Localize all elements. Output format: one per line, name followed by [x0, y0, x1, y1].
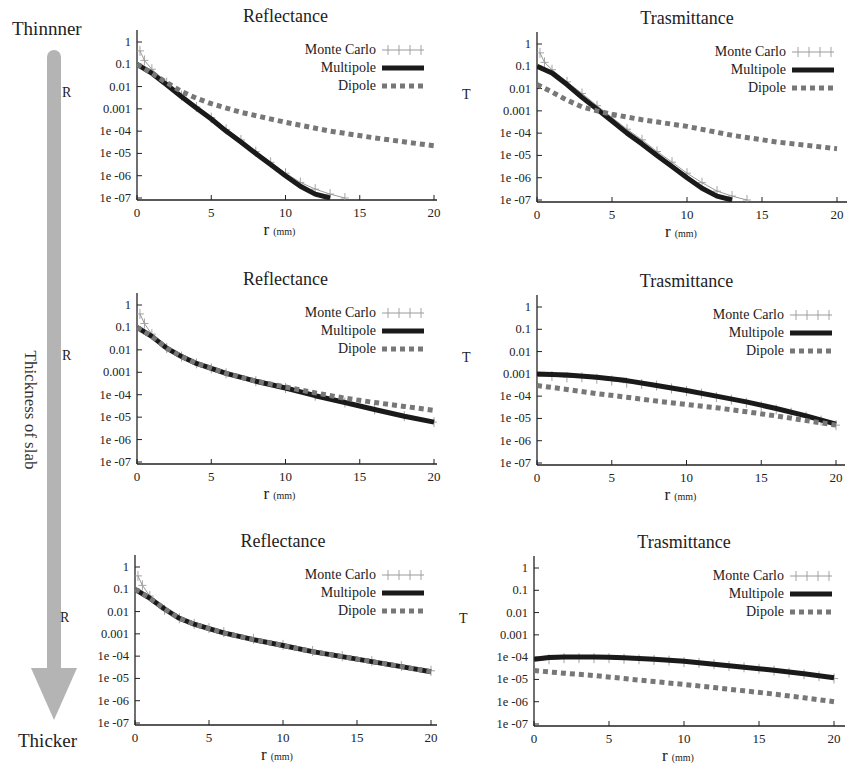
x-axis-label: r(mm)	[662, 746, 694, 765]
y-tick-label: 0.001	[500, 628, 528, 642]
legend: Monte CarloMultipoleDipole	[713, 568, 832, 619]
y-tick-label: 1e -04	[496, 650, 528, 664]
y-tick-label: 1e -06	[496, 695, 528, 709]
chart-title: Trasmittance	[637, 532, 730, 552]
legend-label: Multipole	[729, 586, 784, 601]
x-tick-label: 15	[753, 731, 766, 746]
y-axis-label: T	[459, 611, 468, 626]
x-tick-label: 5	[606, 731, 613, 746]
y-tick-label: 1	[522, 561, 528, 575]
x-tick-label: 10	[678, 731, 691, 746]
x-tick-label: 0	[531, 731, 538, 746]
legend-label: Monte Carlo	[713, 568, 784, 583]
y-tick-label: 0.1	[512, 583, 528, 597]
y-tick-label: 0.01	[506, 606, 528, 620]
y-tick-label: 1e -07	[496, 717, 528, 731]
chart-r3-trasmittance: TrasmittanceT10.10.010.0011e -041e -051e…	[0, 0, 860, 774]
legend-label: Dipole	[746, 604, 784, 619]
x-tick-label: 20	[828, 731, 841, 746]
y-tick-label: 1e -05	[496, 672, 528, 686]
